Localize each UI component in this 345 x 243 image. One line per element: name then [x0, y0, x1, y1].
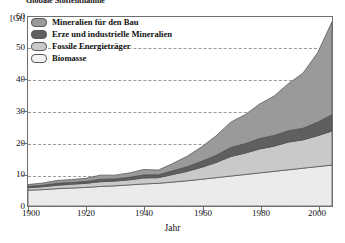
legend-label: Biomasse: [52, 54, 86, 63]
chart-title: Globale Stoffentnahme: [26, 0, 176, 7]
x-axis-title: Jahr: [0, 223, 345, 233]
chart-title-text: Globale Stoffentnahme: [26, 0, 176, 5]
legend-label: Erze und industrielle Mineralien: [52, 30, 172, 39]
x-tick-2000: 2000: [308, 209, 326, 218]
legend-label: Fossile Energieträger: [52, 42, 131, 51]
x-tick-1900: 1900: [22, 209, 40, 218]
legend-item-fossile-energietraeger: Fossile Energieträger: [31, 40, 172, 52]
legend-swatch-icon: [31, 18, 47, 27]
chart-root: Globale Stoffentnahme [Gt] 60 50 40 30 2…: [0, 0, 345, 243]
legend: Mineralien für den Bau Erze und industri…: [31, 16, 172, 64]
x-tick-1920: 1920: [77, 209, 95, 218]
legend-swatch-icon: [31, 30, 47, 39]
legend-item-biomasse: Biomasse: [31, 52, 172, 64]
legend-label: Mineralien für den Bau: [52, 18, 139, 27]
x-tick-1980: 1980: [252, 209, 270, 218]
legend-item-erze-industrielle-mineralien: Erze und industrielle Mineralien: [31, 28, 172, 40]
legend-swatch-icon: [31, 54, 47, 63]
x-tick-1960: 1960: [194, 209, 212, 218]
legend-item-mineralien-bau: Mineralien für den Bau: [31, 16, 172, 28]
legend-swatch-icon: [31, 42, 47, 51]
y-axis: [Gt] 60 50 40 30 20 10 0: [0, 0, 25, 243]
y-tick-50: 50: [0, 43, 25, 52]
x-tick-1940: 1940: [135, 209, 153, 218]
y-tick-60: 60: [0, 12, 25, 21]
